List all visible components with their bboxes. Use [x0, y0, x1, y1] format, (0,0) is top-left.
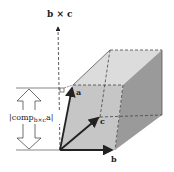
- label-c: c: [100, 116, 105, 126]
- label-a: a: [76, 87, 81, 97]
- height-label: |compb×ca|: [9, 113, 53, 123]
- right-angle-icon: [60, 88, 64, 92]
- label-b: b: [111, 154, 117, 164]
- axis-label: b × c: [47, 9, 73, 19]
- parallelepiped-diagram: b × c a b c |compb×ca|: [0, 0, 174, 172]
- front-face: [60, 85, 123, 150]
